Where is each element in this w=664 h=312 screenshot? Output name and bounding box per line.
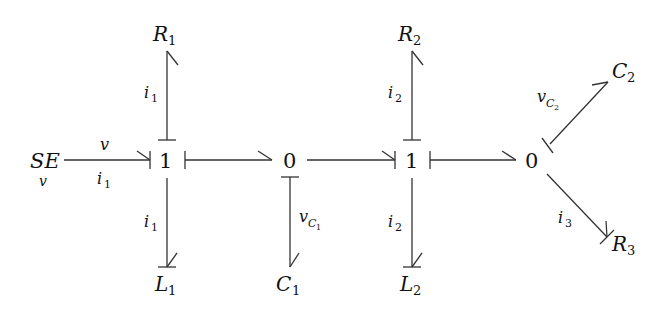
node-r1: R 1	[152, 22, 176, 48]
c1-label: C	[276, 272, 291, 296]
l1-sub: 1	[168, 283, 176, 298]
se-sub-label: v	[39, 173, 47, 189]
bond-1b-r2-flow: i	[388, 83, 393, 102]
r2-sub: 2	[413, 33, 421, 48]
bond-1a-r1-flow: i	[144, 83, 149, 102]
bond-1b-l2: i 2	[388, 178, 422, 267]
bond-se-1a-effort: v	[100, 135, 109, 154]
c2-sub: 2	[627, 70, 635, 85]
bond-1b-l2-flow: i	[388, 212, 393, 231]
bond-1a-0a	[185, 151, 272, 169]
c2-label: C	[612, 59, 627, 83]
node-r3: R 3	[611, 232, 635, 258]
se-label: SE	[30, 149, 60, 173]
bond-se-1a-flow: i	[97, 169, 102, 188]
bond-1a-r1: i 1	[144, 51, 178, 140]
bond-0a-c1-effort: v	[299, 207, 308, 226]
bond-1b-r2-flow-sub: 2	[395, 92, 402, 105]
node-c1: C 1	[276, 272, 300, 298]
bond-0a-1b	[307, 151, 395, 169]
node-l1: L 1	[154, 272, 176, 298]
bond-0b-c2-effort-subsub: 2	[554, 103, 559, 112]
bond-0b-r3-flow-sub: 3	[565, 217, 572, 230]
bond-se-1a-flow-sub: 1	[104, 178, 111, 191]
l2-sub: 2	[413, 283, 421, 298]
junction-1b: 1	[405, 149, 418, 173]
bond-1a-l1-flow: i	[144, 212, 149, 231]
c1-sub: 1	[292, 283, 300, 298]
bond-1b-l2-flow-sub: 2	[395, 221, 402, 234]
bond-0a-c1-effort-subsub: 1	[316, 223, 321, 232]
r3-label: R	[611, 232, 627, 256]
bond-0b-r3-flow: i	[558, 208, 563, 227]
node-l2: L 2	[399, 272, 421, 298]
node-se: SE v	[30, 149, 60, 189]
bond-1b-r2: i 2	[388, 51, 423, 140]
l2-label: L	[399, 272, 413, 296]
r3-sub: 3	[627, 243, 635, 258]
node-r2: R 2	[397, 22, 421, 48]
node-c2: C 2	[612, 59, 635, 85]
bond-0b-r3: i 3	[547, 174, 614, 244]
bond-0b-c2: v C 2	[537, 82, 608, 153]
bond-1a-l1-flow-sub: 1	[151, 221, 158, 234]
junction-0b: 0	[525, 149, 538, 173]
bond-1b-0b	[430, 151, 516, 169]
bond-0b-c2-effort: v	[537, 87, 546, 106]
bond-0a-c1: v C 1	[281, 177, 321, 267]
r1-sub: 1	[168, 33, 176, 48]
bond-se-1a: v i 1	[64, 135, 150, 191]
bond-graph-diagram: SE v 1 0 1 0 R 1 L 1 C 1 R 2 L 2 C 2 R 3	[0, 0, 664, 312]
bond-1a-l1: i 1	[144, 178, 177, 267]
junction-1a: 1	[159, 149, 172, 173]
r2-label: R	[397, 22, 413, 46]
l1-label: L	[154, 272, 168, 296]
r1-label: R	[152, 22, 168, 46]
bond-1a-r1-flow-sub: 1	[151, 92, 158, 105]
junction-0a: 0	[283, 149, 296, 173]
